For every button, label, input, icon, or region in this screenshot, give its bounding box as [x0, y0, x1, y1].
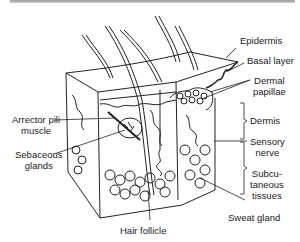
label-sensory-nerve: Sensory nerve: [250, 136, 285, 158]
label-sebaceous-line-1: Sebaceous: [15, 149, 63, 160]
label-dermal-papillae: Dermal papillae: [253, 75, 286, 97]
label-sebaceous-glands: Sebaceous glands: [15, 149, 63, 171]
label-sensory-nerve-line-1: Sensory: [250, 136, 285, 147]
label-hair-follicle: Hair follicle: [120, 225, 166, 236]
label-arrector-line-2: muscle: [12, 125, 60, 136]
label-dermal-papillae-line-1: Dermal: [253, 75, 286, 86]
label-sweat-gland: Sweat gland: [228, 212, 280, 223]
label-dermal-papillae-line-2: papillae: [253, 86, 286, 97]
label-subcutaneous-line-3: tissues: [250, 190, 284, 201]
label-arrector-line-1: Arrector pili: [12, 114, 60, 125]
label-epidermis: Epidermis: [240, 35, 282, 46]
label-sensory-nerve-line-2: nerve: [250, 147, 285, 158]
label-arrector-pili-muscle: Arrector pili muscle: [12, 114, 60, 136]
label-dermis: Dermis: [250, 115, 280, 126]
label-sebaceous-line-2: glands: [15, 160, 63, 171]
label-basal-layer: Basal layer: [247, 55, 294, 66]
label-subcutaneous-line-1: Subcu-: [250, 168, 284, 179]
label-subcutaneous-tissues: Subcu- taneous tissues: [250, 168, 284, 201]
label-subcutaneous-line-2: taneous: [250, 179, 284, 190]
